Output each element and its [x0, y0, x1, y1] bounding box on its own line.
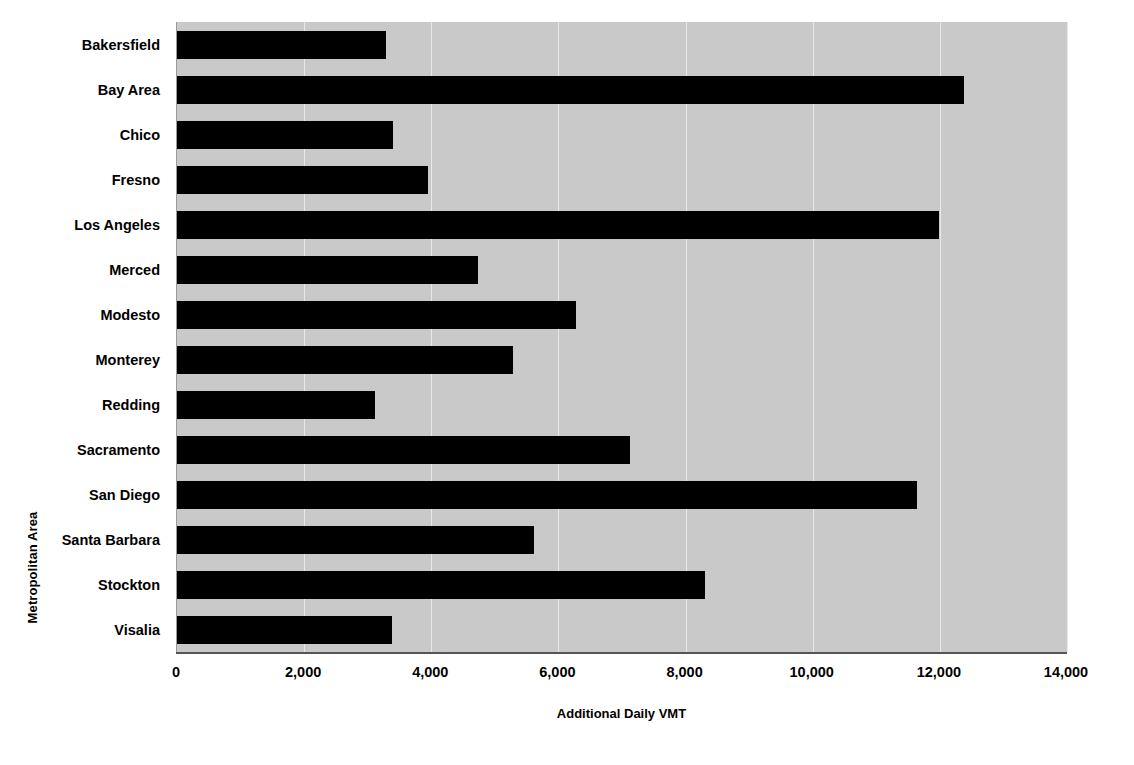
x-axis-tick-label: 14,000 [1044, 664, 1088, 680]
bar [177, 76, 964, 104]
bar [177, 166, 428, 194]
bar [177, 436, 630, 464]
bar [177, 481, 917, 509]
y-axis-tick-label: Bakersfield [82, 36, 160, 54]
y-axis-category-labels: BakersfieldBay AreaChicoFresnoLos Angele… [0, 22, 168, 652]
y-axis-tick-label: Los Angeles [74, 216, 160, 234]
bar [177, 211, 939, 239]
bar [177, 346, 513, 374]
bar-chart: Metropolitan Area BakersfieldBay AreaChi… [0, 0, 1134, 765]
gridline-8000 [686, 22, 687, 652]
x-axis-tick-label: 8,000 [666, 664, 702, 680]
gridline-4000 [431, 22, 432, 652]
y-axis-tick-label: Fresno [112, 171, 160, 189]
gridline-2000 [304, 22, 305, 652]
x-axis-tick-label: 6,000 [539, 664, 575, 680]
x-axis-line [176, 652, 1067, 654]
gridline-14000 [1067, 22, 1068, 652]
y-axis-tick-label: Merced [109, 261, 160, 279]
y-axis-tick-label: Santa Barbara [62, 531, 160, 549]
gridline-10000 [813, 22, 814, 652]
x-axis-tick-label: 4,000 [412, 664, 448, 680]
bar [177, 571, 705, 599]
x-axis-tick-labels: 02,0004,0006,0008,00010,00012,00014,000 [0, 664, 1134, 688]
bar [177, 121, 393, 149]
bar [177, 256, 478, 284]
y-axis-tick-label: Visalia [114, 621, 160, 639]
bar [177, 31, 386, 59]
bar [177, 391, 375, 419]
x-axis-title: Additional Daily VMT [176, 706, 1067, 721]
y-axis-tick-label: San Diego [89, 486, 160, 504]
y-axis-tick-label: Monterey [96, 351, 160, 369]
x-axis-tick-label: 12,000 [917, 664, 961, 680]
y-axis-tick-label: Redding [102, 396, 160, 414]
y-axis-tick-label: Chico [120, 126, 160, 144]
y-axis-tick-label: Bay Area [98, 81, 160, 99]
gridline-12000 [940, 22, 941, 652]
bar [177, 526, 534, 554]
bar [177, 301, 576, 329]
y-axis-tick-label: Modesto [100, 306, 160, 324]
plot-area [176, 22, 1067, 652]
x-axis-tick-label: 10,000 [790, 664, 834, 680]
gridline-6000 [558, 22, 559, 652]
y-axis-tick-label: Stockton [98, 576, 160, 594]
bar [177, 616, 392, 644]
x-axis-tick-label: 0 [172, 664, 180, 680]
x-axis-tick-label: 2,000 [285, 664, 321, 680]
y-axis-tick-label: Sacramento [77, 441, 160, 459]
